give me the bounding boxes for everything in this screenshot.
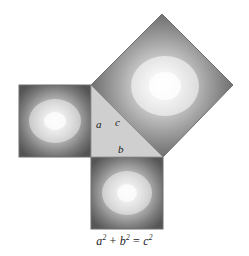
figure-canvas: a c b (0, 0, 249, 256)
caption-exp-c: 2 (149, 233, 153, 242)
pythagorean-theorem-diagram: a c b a2 + b2 = c2 (0, 0, 249, 256)
triangle-label-a: a (96, 118, 102, 130)
square-a-highlight-core (44, 112, 66, 130)
triangle-label-b: b (118, 143, 124, 155)
square-b-group (91, 157, 163, 229)
square-c-highlight-core (149, 72, 181, 100)
theorem-caption: a2 + b2 = c2 (0, 233, 249, 249)
square-a-group (19, 85, 91, 157)
caption-plus-sign: + (110, 234, 117, 248)
triangle-label-c: c (115, 116, 120, 128)
square-b-highlight-core (117, 184, 137, 202)
